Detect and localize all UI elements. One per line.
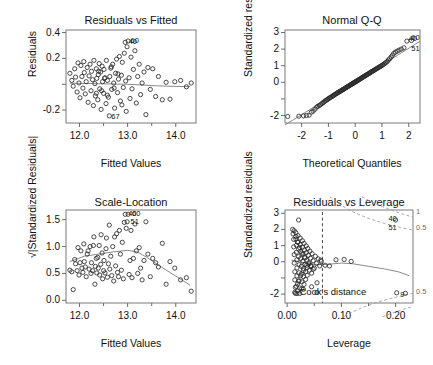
point-label: 51 [411,44,419,53]
plot-area-normal-qq [239,18,433,157]
point-label: 60 [411,33,419,42]
point-label: 67 [111,112,119,121]
r-diagnostic-plots-figure: Residuals vs FittedResidualsFitted Value… [0,0,433,365]
cooks-contour-label: 1 [416,207,420,216]
point-label: 9 [400,290,404,299]
point-label: 51 [131,217,139,226]
x-axis-label-residuals-vs-fitted: Fitted Values [61,157,201,169]
cooks-contour-label: 0.5 [416,223,426,232]
x-axis-label-residuals-vs-leverage: Leverage [279,337,419,349]
cooks-distance-label: Cook's distance [299,286,366,297]
x-axis-label-normal-qq: Theoretical Quantiles [282,157,422,169]
cooks-contour-label: 0.5 [416,287,426,296]
point-label: 51 [388,223,396,232]
point-label: 40 [388,214,396,223]
plot-area-residuals-vs-leverage [239,198,433,337]
x-axis-label-scale-location: Fitted Values [61,337,201,349]
point-label: 60 [131,36,139,45]
